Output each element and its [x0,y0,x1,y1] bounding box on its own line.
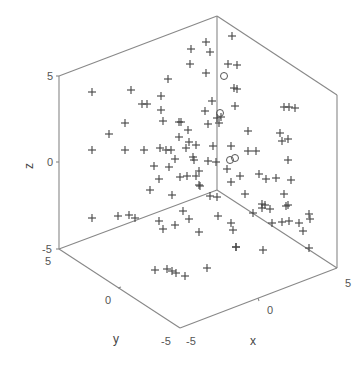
plus-marker [212,158,220,166]
plus-marker [278,137,286,145]
plus-marker [255,170,263,178]
y-axis-ticks: 5 0 -5 [45,255,171,347]
plus-marker [157,106,165,114]
plus-marker [236,172,244,180]
plus-marker [223,165,231,173]
plus-marker [272,174,280,182]
plus-marker [214,212,222,220]
plus-marker [195,181,203,189]
plus-marker [284,156,292,164]
plus-marker [181,272,189,280]
z-axis-label: z [22,163,36,169]
plus-marker [208,97,216,105]
plus-marker [266,205,274,213]
y-axis-label: y [113,332,119,346]
3d-scatter-plot: 5 0 -5 5 0 -5 -5 0 5 z y x [0,0,364,368]
plus-marker [227,178,235,186]
plus-marker [203,264,211,272]
plus-marker [232,243,240,251]
plus-marker [165,163,173,171]
plus-marker [121,119,129,127]
plus-marker [284,201,292,209]
circle-marker [221,73,228,80]
plus-marker [305,210,313,218]
plus-marker [209,142,217,150]
plus-marker [192,141,200,149]
plus-marker [227,219,235,227]
plus-marker [262,175,270,183]
plus-marker [163,265,171,273]
plus-marker [276,129,284,137]
plus-marker [196,182,204,190]
plus-marker [291,104,299,112]
x-tick-label: 0 [267,304,273,316]
plus-marker [171,155,179,163]
plus-marker [241,190,249,198]
plus-marker [206,48,214,56]
y-tick-label: 5 [45,255,51,267]
plus-marker [186,60,194,68]
plus-marker [143,100,151,108]
plus-marker [168,267,176,275]
plus-marker [284,135,292,143]
z-tick-label: -5 [42,243,52,255]
plus-marker [164,75,172,83]
plus-marker [204,120,212,128]
plus-marker [184,126,192,134]
plus-marker [201,107,209,115]
y-tick-label: 0 [105,294,111,306]
plus-marker [176,173,184,181]
x-axis-ticks: -5 0 5 [186,277,351,347]
plus-marker [213,193,221,201]
plus-marker [305,244,313,252]
plus-marker [172,269,180,277]
plus-marker [121,146,129,154]
plus-marker [155,217,163,225]
plus-marker [179,207,187,215]
plus-marker [202,69,210,77]
plus-marker [167,146,175,154]
x-tick-label: -5 [186,335,196,347]
plus-marker [105,130,113,138]
plus-marker [88,146,96,154]
plus-marker [157,92,165,100]
plus-marker [287,176,295,184]
plus-marker [88,214,96,222]
plus-marker [233,61,241,69]
plus-marker [177,118,185,126]
plus-marker [228,32,236,40]
z-tick-label: 5 [47,70,53,82]
plus-marker [155,175,163,183]
plus-marker [185,215,193,223]
plus-marker [278,218,286,226]
plus-marker [204,157,212,165]
plus-marker [227,142,235,150]
plus-marker [159,117,167,125]
plus-marker [244,147,252,155]
plus-marker [114,212,122,220]
y-tick-label: -5 [161,335,171,347]
plus-marker [175,133,183,141]
scatter-points [88,32,314,280]
plus-marker [150,162,158,170]
plus-marker [151,266,159,274]
plus-marker [244,127,252,135]
x-tick-label: 5 [345,277,351,289]
plus-marker [231,102,239,110]
plus-marker [187,45,195,53]
plus-marker [280,103,288,111]
plus-marker [168,191,176,199]
plus-marker [127,86,135,94]
z-tick-label: 0 [47,156,53,168]
plus-marker [159,225,167,233]
plus-marker [146,186,154,194]
plus-marker [299,227,307,235]
plus-marker [282,202,290,210]
plus-marker [224,60,232,68]
plus-marker [280,190,288,198]
plus-marker [88,88,96,96]
plus-marker [202,38,210,46]
plus-marker [140,146,148,154]
plus-marker [285,217,293,225]
plus-marker [268,219,276,227]
